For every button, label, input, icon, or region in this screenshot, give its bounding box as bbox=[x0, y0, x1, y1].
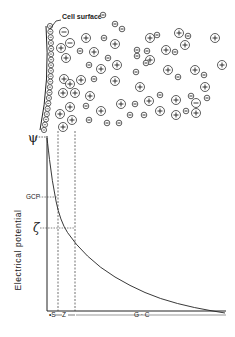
anion-icon bbox=[86, 117, 92, 123]
cation-icon bbox=[156, 107, 165, 116]
anion-icon bbox=[175, 74, 181, 80]
anion-icon bbox=[91, 76, 97, 82]
anion-icon bbox=[112, 21, 118, 27]
anion-icon bbox=[105, 55, 111, 61]
anion-icon bbox=[134, 53, 140, 59]
anion-icon bbox=[104, 120, 110, 126]
cation-icon bbox=[66, 80, 75, 89]
cation-icon bbox=[59, 123, 68, 132]
cation-icon bbox=[66, 103, 75, 112]
anion-icon bbox=[100, 12, 106, 18]
cation-icon bbox=[175, 29, 184, 38]
ion-cloud bbox=[56, 12, 227, 131]
cation-icon bbox=[172, 96, 181, 105]
anion-icon bbox=[60, 28, 69, 37]
anion-icon bbox=[141, 112, 147, 118]
cation-icon bbox=[146, 34, 155, 43]
cation-icon bbox=[68, 116, 77, 125]
anion-icon bbox=[172, 49, 178, 55]
z-region-label: Z bbox=[62, 311, 66, 318]
cation-icon bbox=[97, 65, 106, 74]
cation-icon bbox=[111, 40, 120, 49]
anion-icon bbox=[134, 47, 140, 53]
cation-icon bbox=[117, 100, 126, 109]
y-axis-label: Electrical potential bbox=[13, 210, 23, 291]
potential-curve bbox=[47, 138, 225, 313]
cation-icon bbox=[90, 48, 99, 57]
anion-icon bbox=[183, 108, 189, 114]
cation-icon bbox=[172, 111, 181, 120]
anion-icon bbox=[66, 39, 75, 48]
cation-icon bbox=[162, 46, 171, 55]
anion-icon bbox=[204, 95, 210, 101]
anion-icon bbox=[86, 62, 92, 68]
cell-surface-label: Cell surface bbox=[62, 13, 102, 20]
cation-icon bbox=[97, 107, 106, 116]
cation-icon bbox=[113, 61, 122, 70]
anion-icon bbox=[77, 48, 83, 54]
cation-icon bbox=[145, 97, 154, 106]
cation-icon bbox=[59, 89, 68, 98]
gcp-label: GCP bbox=[26, 193, 40, 200]
s-region-label: •S bbox=[49, 311, 56, 318]
cell-surface-membrane bbox=[40, 23, 54, 132]
cell-surface-label-group: Cell surface bbox=[50, 13, 102, 29]
anion-icon bbox=[116, 120, 122, 126]
anion-icon bbox=[185, 33, 191, 39]
cation-icon bbox=[77, 76, 86, 85]
anion-icon bbox=[188, 93, 194, 99]
cation-icon bbox=[191, 66, 200, 75]
anion-icon bbox=[201, 72, 207, 78]
cation-icon bbox=[164, 66, 173, 75]
cation-icon bbox=[136, 83, 145, 92]
cation-icon bbox=[218, 61, 227, 70]
anion-icon bbox=[127, 112, 133, 118]
cation-icon bbox=[57, 44, 66, 53]
anion-icon bbox=[144, 48, 150, 54]
zeta-label: ζ bbox=[33, 221, 41, 235]
anion-icon bbox=[83, 103, 89, 109]
cation-icon bbox=[86, 92, 95, 101]
cation-icon bbox=[56, 110, 65, 119]
anion-icon bbox=[132, 101, 138, 107]
psi-label: ψ bbox=[28, 130, 38, 145]
cation-icon bbox=[71, 89, 80, 98]
anion-icon bbox=[192, 99, 201, 108]
cation-icon bbox=[181, 41, 190, 50]
anion-icon bbox=[133, 69, 139, 75]
region-labels: •S Z G · C bbox=[49, 311, 150, 318]
cation-icon bbox=[82, 34, 91, 43]
cation-icon bbox=[211, 34, 220, 43]
cation-icon bbox=[192, 109, 201, 118]
electrical-double-layer-diagram: Cell surface ψ Electrical potential GCP … bbox=[0, 0, 235, 337]
anion-icon bbox=[119, 26, 125, 32]
cation-icon bbox=[201, 83, 210, 92]
anion-icon bbox=[143, 60, 149, 66]
anion-icon bbox=[157, 92, 163, 98]
anion-icon bbox=[154, 32, 160, 38]
cation-icon bbox=[62, 54, 71, 63]
cation-icon bbox=[111, 77, 120, 86]
gc-region-label: G · C bbox=[134, 311, 150, 318]
surface-negative-charges bbox=[41, 23, 53, 132]
anion-icon bbox=[101, 35, 107, 41]
